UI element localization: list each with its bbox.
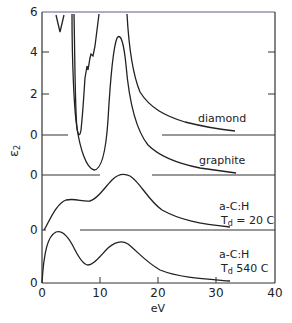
series-label-ach540-line2: Td 540 C: [221, 263, 268, 276]
x-tick-label-40: 40: [267, 287, 282, 299]
series-label-ach20-line2: Td = 20 C: [221, 215, 274, 228]
ach540-curve: [42, 232, 230, 283]
x-tick-label-30: 30: [208, 287, 223, 299]
ach540-T: T: [221, 262, 228, 275]
ach20-rest: = 20 C: [233, 214, 274, 227]
ach20-T: T: [221, 214, 228, 227]
zero-label-ach540: 0: [30, 277, 38, 289]
ach540-rest: 540 C: [233, 262, 269, 275]
x-tick-label-20: 20: [150, 287, 165, 299]
y-axis-label: ε2: [6, 145, 22, 157]
y-axis-label-sub: 2: [13, 145, 22, 150]
x-tick-label-10: 10: [92, 287, 107, 299]
zero-label-graphite: 0: [30, 169, 38, 181]
x-axis-label: eV: [151, 302, 165, 315]
y-axis-label-main: ε: [6, 150, 21, 157]
zero-label-ach20: 0: [30, 224, 38, 236]
zero-label-diamond: 0: [30, 129, 38, 141]
y-tick-label-2: 2: [30, 88, 38, 100]
v-mark: [56, 15, 64, 32]
y-tick-label-6: 6: [30, 6, 38, 18]
series-label-graphite: graphite: [199, 155, 245, 166]
series-label-diamond: diamond: [198, 113, 246, 124]
y-tick-label-4: 4: [30, 46, 38, 58]
ach20-curve: [44, 174, 230, 230]
x-tick-label-0: 0: [38, 287, 46, 299]
series-label-ach20-line1: a-C:H: [219, 201, 249, 212]
series-label-ach540-line1: a-C:H: [219, 249, 249, 260]
